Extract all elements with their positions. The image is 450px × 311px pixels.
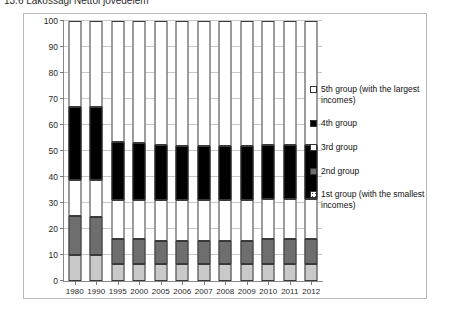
- x-tick-label: 2007: [195, 287, 213, 296]
- bar-segment-g5[interactable]: [219, 21, 232, 146]
- bar-column[interactable]: 2000: [129, 21, 151, 281]
- bar-segment-g4[interactable]: [68, 107, 81, 180]
- bar-column[interactable]: 1980: [64, 21, 86, 281]
- bar-column[interactable]: 2008: [215, 21, 237, 281]
- legend-item-g3[interactable]: 3rd group: [310, 142, 438, 153]
- bar-segment-g2[interactable]: [111, 239, 124, 264]
- bar-segment-g3[interactable]: [176, 200, 189, 240]
- bar-stack[interactable]: [219, 21, 232, 281]
- bar-column[interactable]: 1990: [86, 21, 108, 281]
- x-tick-mark: [311, 281, 312, 285]
- bar-segment-g1[interactable]: [240, 264, 253, 281]
- bar-segment-g2[interactable]: [219, 241, 232, 264]
- bar-segment-g5[interactable]: [68, 21, 81, 107]
- x-tick-label: 1980: [66, 287, 84, 296]
- bar-segment-g4[interactable]: [283, 145, 296, 200]
- bar-segment-g3[interactable]: [154, 200, 167, 240]
- bar-segment-g5[interactable]: [90, 21, 103, 107]
- bar-segment-g5[interactable]: [176, 21, 189, 146]
- bar-segment-g1[interactable]: [68, 255, 81, 281]
- legend-item-g1[interactable]: 1st group (with the smallest incomes): [310, 189, 438, 210]
- bar-stack[interactable]: [90, 21, 103, 281]
- bar-segment-g5[interactable]: [262, 21, 275, 145]
- bar-stack[interactable]: [262, 21, 275, 281]
- bar-segment-g2[interactable]: [240, 241, 253, 264]
- bar-segment-g1[interactable]: [262, 264, 275, 281]
- y-tick-label: 30: [49, 198, 58, 208]
- bar-stack[interactable]: [133, 21, 146, 281]
- bar-segment-g4[interactable]: [154, 145, 167, 201]
- bar-segment-g3[interactable]: [68, 180, 81, 216]
- bar-column[interactable]: 2009: [236, 21, 258, 281]
- x-tick-mark: [268, 281, 269, 285]
- x-tick-mark: [96, 281, 97, 285]
- bar-segment-g4[interactable]: [176, 146, 189, 201]
- bar-segment-g1[interactable]: [111, 264, 124, 281]
- bar-segment-g1[interactable]: [305, 264, 318, 281]
- bar-segment-g4[interactable]: [111, 142, 124, 201]
- bar-segment-g5[interactable]: [197, 21, 210, 146]
- bar-column[interactable]: 2011: [279, 21, 301, 281]
- bar-segment-g4[interactable]: [262, 145, 275, 200]
- x-tick-mark: [118, 281, 119, 285]
- bar-segment-g4[interactable]: [90, 107, 103, 180]
- bar-segment-g2[interactable]: [305, 239, 318, 264]
- legend-item-g5[interactable]: 5th group (with the largest incomes): [310, 84, 438, 105]
- x-tick-mark: [161, 281, 162, 285]
- y-tick-label: 100: [44, 16, 58, 26]
- bar-segment-g3[interactable]: [262, 199, 275, 239]
- bar-column[interactable]: 2006: [172, 21, 194, 281]
- bar-segment-g3[interactable]: [111, 200, 124, 239]
- bar-segment-g3[interactable]: [283, 199, 296, 239]
- bar-segment-g1[interactable]: [90, 255, 103, 281]
- bar-segment-g1[interactable]: [154, 264, 167, 281]
- bar-segment-g5[interactable]: [154, 21, 167, 145]
- bar-segment-g4[interactable]: [197, 146, 210, 201]
- bar-segment-g2[interactable]: [133, 239, 146, 264]
- bar-segment-g2[interactable]: [262, 239, 275, 264]
- bar-stack[interactable]: [240, 21, 253, 281]
- bar-segment-g2[interactable]: [68, 216, 81, 255]
- bar-segment-g1[interactable]: [133, 264, 146, 281]
- bar-segment-g5[interactable]: [133, 21, 146, 143]
- bar-segment-g1[interactable]: [176, 264, 189, 281]
- bar-segment-g4[interactable]: [219, 146, 232, 201]
- plot-area: 0102030405060708090100 19801990199520002…: [64, 21, 322, 281]
- bar-segment-g2[interactable]: [154, 241, 167, 264]
- x-axis-line: [63, 281, 323, 282]
- bar-stack[interactable]: [283, 21, 296, 281]
- bar-stack[interactable]: [111, 21, 124, 281]
- bar-segment-g4[interactable]: [240, 146, 253, 201]
- bar-column[interactable]: 2010: [258, 21, 280, 281]
- bar-column[interactable]: 2007: [193, 21, 215, 281]
- bar-stack[interactable]: [154, 21, 167, 281]
- bar-segment-g1[interactable]: [219, 264, 232, 281]
- x-tick-label: 2011: [281, 287, 298, 296]
- bar-stack[interactable]: [176, 21, 189, 281]
- bar-segment-g2[interactable]: [197, 241, 210, 264]
- bar-segment-g2[interactable]: [176, 241, 189, 264]
- bar-segment-g3[interactable]: [240, 200, 253, 240]
- bar-segment-g5[interactable]: [283, 21, 296, 145]
- bar-segment-g5[interactable]: [240, 21, 253, 146]
- bar-segment-g3[interactable]: [197, 200, 210, 240]
- bar-segment-g3[interactable]: [90, 180, 103, 218]
- legend-item-g4[interactable]: 4th group: [310, 118, 438, 129]
- chart-legend: 5th group (with the largest incomes)4th …: [310, 84, 438, 223]
- legend-swatch-icon: [310, 120, 317, 127]
- bar-segment-g2[interactable]: [283, 239, 296, 264]
- bar-stack[interactable]: [197, 21, 210, 281]
- bar-segment-g3[interactable]: [219, 200, 232, 240]
- bar-segment-g3[interactable]: [133, 200, 146, 239]
- bar-segment-g1[interactable]: [283, 264, 296, 281]
- bar-column[interactable]: 2005: [150, 21, 172, 281]
- legend-swatch-icon: [310, 191, 317, 198]
- legend-item-label: 5th group (with the largest incomes): [321, 84, 438, 105]
- bar-stack[interactable]: [68, 21, 81, 281]
- bar-segment-g2[interactable]: [90, 217, 103, 255]
- bar-segment-g1[interactable]: [197, 264, 210, 281]
- bar-column[interactable]: 1995: [107, 21, 129, 281]
- bar-segment-g4[interactable]: [133, 143, 146, 200]
- legend-item-g2[interactable]: 2nd group: [310, 166, 438, 177]
- bar-segment-g5[interactable]: [111, 21, 124, 142]
